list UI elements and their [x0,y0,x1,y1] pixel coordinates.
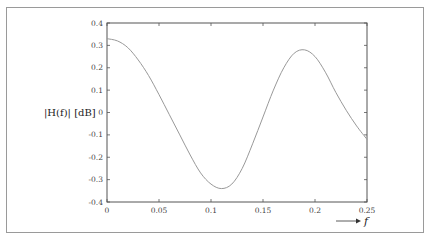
y-tick-label: 0.1 [91,86,103,95]
x-tick-label: 0.05 [151,206,168,215]
y-tick-label: -0.1 [89,130,103,139]
y-tick-label: 0 [98,108,103,117]
x-tick-label: 0.15 [255,206,272,215]
y-tick-label: -0.4 [89,198,104,207]
y-axis-ticks: 0.40.30.20.10-0.1-0.2-0.3-0.4 [89,19,367,207]
y-axis-label: |H(f)| [dB] [44,107,96,119]
frequency-response-curve [107,39,367,189]
x-tick-label: 0 [105,206,110,215]
x-axis-ticks: 00.050.10.150.20.25 [105,23,376,215]
x-tick-label: 0.25 [359,206,376,215]
y-tick-label: -0.3 [89,175,104,184]
x-axis-arrow-icon [356,219,361,224]
y-tick-label: -0.2 [89,153,104,162]
line-chart: 0.40.30.20.10-0.1-0.2-0.3-0.4 00.050.10.… [0,0,431,239]
y-tick-label: 0.4 [91,19,103,28]
y-tick-label: 0.3 [91,41,103,50]
y-tick-label: 0.2 [91,63,103,72]
x-axis-label: f [363,215,370,228]
plot-area [107,23,367,202]
x-tick-label: 0.1 [205,206,217,215]
x-tick-label: 0.2 [309,206,321,215]
